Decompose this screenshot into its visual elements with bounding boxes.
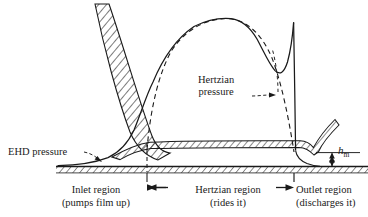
hertzian-pressure-label: Hertzian pressure (198, 74, 234, 99)
ehd-pressure-label: EHD pressure (8, 146, 67, 158)
region-label-outlet-title: Outlet region (296, 184, 352, 195)
hertzian-pressure-label-line2: pressure (199, 86, 234, 97)
ehd-contact-figure: EHD pressure Hertzian pressure hm Inlet … (0, 0, 368, 217)
region-label-hertzian-subtitle: (rides it) (158, 196, 298, 209)
region-label-outlet-subtitle: (discharges it) (296, 196, 368, 209)
region-label-hertzian: Hertzian region (rides it) (158, 183, 298, 209)
stationary-surface (56, 167, 368, 173)
hertzian-pressure-label-line1: Hertzian (198, 74, 234, 85)
region-label-inlet: Inlet region (pumps film up) (46, 183, 146, 209)
ehd-pressure-leader (84, 152, 102, 162)
region-label-inlet-title: Inlet region (72, 184, 121, 195)
region-label-hertzian-title: Hertzian region (195, 184, 261, 195)
region-label-outlet: Outlet region (discharges it) (296, 183, 368, 209)
film-thickness-subscript: m (344, 150, 350, 159)
minimum-film-thickness-label: hm (338, 144, 349, 160)
region-label-inlet-subtitle: (pumps film up) (46, 196, 146, 209)
